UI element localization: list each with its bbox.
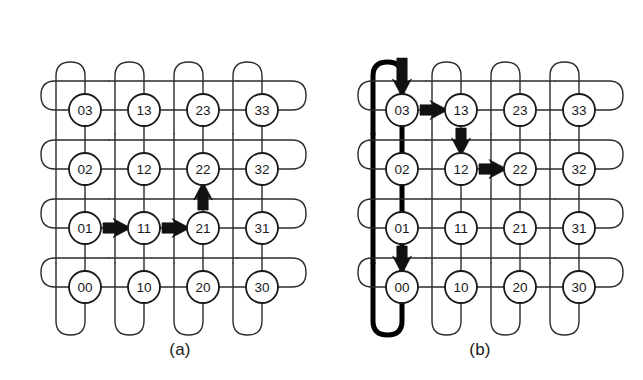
node-label: 22 (512, 162, 527, 177)
node-label: 01 (394, 221, 409, 236)
node[interactable]: 22 (187, 153, 219, 185)
node-label: 13 (453, 103, 468, 118)
node-label: 12 (136, 162, 151, 177)
node[interactable]: 33 (563, 94, 595, 126)
node[interactable]: 10 (445, 271, 477, 303)
node-label: 00 (77, 280, 92, 295)
node[interactable]: 11 (128, 212, 160, 244)
node[interactable]: 30 (246, 271, 278, 303)
node[interactable]: 23 (187, 94, 219, 126)
node-label: 31 (254, 221, 269, 236)
node-label: 02 (394, 162, 409, 177)
node[interactable]: 13 (128, 94, 160, 126)
node-label: 11 (137, 221, 151, 236)
node-label: 03 (77, 103, 92, 118)
node[interactable]: 10 (128, 271, 160, 303)
node-label: 10 (453, 280, 468, 295)
node[interactable]: 01 (386, 212, 418, 244)
node-label: 31 (571, 221, 586, 236)
node-label: 21 (195, 221, 210, 236)
node[interactable]: 22 (504, 153, 536, 185)
node[interactable]: 31 (246, 212, 278, 244)
node-label: 03 (394, 103, 409, 118)
node[interactable]: 02 (386, 153, 418, 185)
node[interactable]: 01 (69, 212, 101, 244)
node[interactable]: 30 (563, 271, 595, 303)
node[interactable]: 21 (187, 212, 219, 244)
node[interactable]: 21 (504, 212, 536, 244)
node-label: 32 (571, 162, 586, 177)
node[interactable]: 23 (504, 94, 536, 126)
node-label: 33 (254, 103, 269, 118)
node[interactable]: 32 (246, 153, 278, 185)
node-label: 32 (254, 162, 269, 177)
panel-a: 00102030011121310212223203132333 (41, 62, 306, 335)
panel-a-caption: (a) (140, 340, 220, 360)
node-label: 22 (195, 162, 210, 177)
node-label: 12 (453, 162, 468, 177)
node[interactable]: 00 (386, 271, 418, 303)
node-label: 20 (512, 280, 527, 295)
node[interactable]: 32 (563, 153, 595, 185)
node-label: 21 (512, 221, 527, 236)
node-label: 23 (512, 103, 527, 118)
figure-background (0, 0, 643, 380)
node[interactable]: 02 (69, 153, 101, 185)
node[interactable]: 03 (386, 94, 418, 126)
panel-b-caption: (b) (440, 340, 520, 360)
node[interactable]: 00 (69, 271, 101, 303)
node[interactable]: 20 (504, 271, 536, 303)
node-label: 02 (77, 162, 92, 177)
node[interactable]: 13 (445, 94, 477, 126)
node-label: 33 (571, 103, 586, 118)
node[interactable]: 12 (128, 153, 160, 185)
node-label: 23 (195, 103, 210, 118)
node-label: 01 (77, 221, 92, 236)
node-label: 30 (571, 280, 586, 295)
node[interactable]: 20 (187, 271, 219, 303)
node-label: 13 (136, 103, 151, 118)
node-label: 00 (394, 280, 409, 295)
node[interactable]: 03 (69, 94, 101, 126)
node[interactable]: 11 (445, 212, 477, 244)
torus-figure: 00102030011121310212223203132333 0010203… (0, 0, 643, 380)
node[interactable]: 31 (563, 212, 595, 244)
node-label: 20 (195, 280, 210, 295)
node-label: 11 (454, 221, 468, 236)
node[interactable]: 33 (246, 94, 278, 126)
node-label: 10 (136, 280, 151, 295)
node[interactable]: 12 (445, 153, 477, 185)
node-label: 30 (254, 280, 269, 295)
